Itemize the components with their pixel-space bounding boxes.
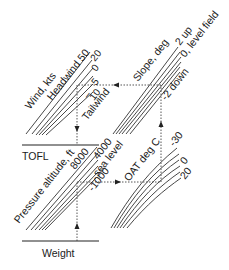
tofl-label: TOFL <box>22 150 49 162</box>
altitude-label-minus-1000: -1000 <box>85 165 111 194</box>
oat-axis-label: OAT deg C <box>121 135 162 183</box>
wind-label-20: 20 <box>88 47 104 63</box>
arrow-right-icon <box>115 180 121 185</box>
slope-axis-label: Slope, deg <box>130 36 170 83</box>
weight-label: Weight <box>42 247 75 259</box>
wind-label-5: 5 <box>89 76 101 88</box>
arrow-up-icon <box>159 121 164 127</box>
wind-label-0: 0 <box>89 62 101 74</box>
tofl-nomogram: Wind, kts Headwind 50 20 0 5 10 – Tailwi… <box>0 0 229 270</box>
oat-label-minus-30: -30 <box>166 129 185 148</box>
arrow-down-icon <box>75 126 80 132</box>
arrow-left-icon <box>113 83 119 88</box>
arrow-up-icon <box>75 223 80 229</box>
